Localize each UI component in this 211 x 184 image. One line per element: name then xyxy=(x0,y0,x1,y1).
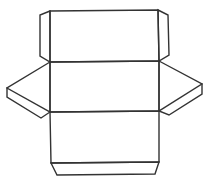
top-panel xyxy=(50,10,159,62)
left-top-flap xyxy=(40,11,50,62)
left-wing-crease xyxy=(7,88,50,112)
bottom-panel xyxy=(50,111,159,163)
bottom-flap xyxy=(51,162,159,175)
box-net-diagram xyxy=(0,0,211,184)
middle-panel xyxy=(50,61,159,112)
right-top-flap xyxy=(158,10,169,61)
diagram-canvas xyxy=(0,0,211,184)
left-wing xyxy=(7,62,50,118)
